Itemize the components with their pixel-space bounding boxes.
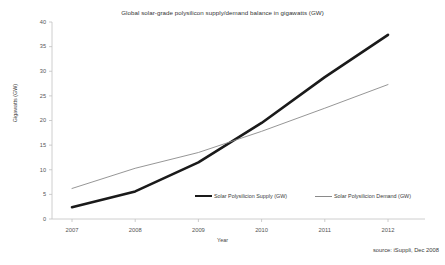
y-axis-tick-label: 0 [26, 216, 46, 222]
y-axis-tick-label: 40 [26, 19, 46, 25]
x-axis-ticks [72, 219, 388, 222]
series-lines [72, 35, 388, 207]
chart-legend: Solar Polysilicion Supply (GW) Solar Pol… [195, 193, 445, 205]
legend-swatch-demand-icon [315, 196, 332, 197]
y-axis-tick-label: 10 [26, 167, 46, 173]
axis-lines [52, 22, 425, 219]
y-axis-tick-label: 30 [26, 68, 46, 74]
series-line-supply [72, 35, 388, 207]
x-axis-tick-label: 2008 [115, 227, 155, 233]
y-axis-tick-label: 25 [26, 93, 46, 99]
chart-container: Global solar-grade polysilicon supply/de… [0, 0, 445, 265]
y-axis-tick-label: 35 [26, 43, 46, 49]
x-axis-tick-label: 2011 [305, 227, 345, 233]
legend-item-supply: Solar Polysilicion Supply (GW) [195, 193, 287, 199]
plot-area [0, 0, 445, 265]
legend-label-supply: Solar Polysilicion Supply (GW) [214, 193, 287, 199]
x-axis-tick-label: 2010 [242, 227, 282, 233]
x-axis-tick-label: 2009 [178, 227, 218, 233]
y-axis-tick-label: 20 [26, 117, 46, 123]
x-axis-tick-label: 2012 [368, 227, 408, 233]
legend-swatch-supply-icon [195, 195, 212, 198]
source-note: source: iSuppli, Dec 2008 [373, 247, 439, 253]
series-line-demand [72, 85, 388, 189]
x-axis-title: Year [0, 237, 445, 243]
legend-item-demand: Solar Polysilicion Demand (GW) [315, 193, 411, 199]
y-axis-ticks [49, 22, 52, 219]
y-axis-tick-label: 15 [26, 142, 46, 148]
legend-label-demand: Solar Polysilicion Demand (GW) [334, 193, 411, 199]
y-axis-tick-label: 5 [26, 191, 46, 197]
x-axis-tick-label: 2007 [52, 227, 92, 233]
